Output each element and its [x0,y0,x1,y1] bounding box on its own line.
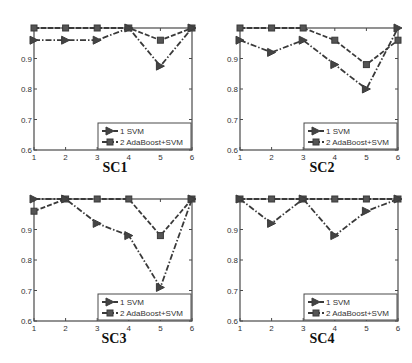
x-tick-label: 3 [301,324,306,331]
y-tick-label: 0.8 [227,256,239,265]
x-tick-label: 3 [301,153,306,160]
square-marker [332,37,338,43]
square-marker [157,37,163,43]
plot-sc3: 0.60.70.80.91234561 SVM2 AdaBoost+SVM [0,171,206,331]
square-marker [237,25,243,31]
square-marker [332,196,338,202]
x-tick-label: 1 [238,324,243,331]
legend-label: 2 AdaBoost+SVM [326,138,389,147]
square-marker [126,196,132,202]
x-tick-label: 5 [364,153,369,160]
y-tick-label: 0.7 [21,287,33,296]
x-tick-label: 2 [63,153,68,160]
square-marker [94,196,100,202]
x-tick-label: 4 [333,153,338,160]
x-tick-label: 1 [32,324,37,331]
legend-label: 1 SVM [326,127,350,136]
x-tick-label: 4 [127,324,132,331]
y-tick-label: 0.8 [227,85,239,94]
caption-sc3: SC3 [84,331,144,347]
x-tick-label: 2 [269,324,274,331]
plot-sc2: 0.60.70.80.91234561 SVM2 AdaBoost+SVM [206,0,412,160]
legend-label: 1 SVM [326,298,350,307]
x-tick-label: 2 [63,324,68,331]
legend: 1 SVM2 AdaBoost+SVM [98,123,191,149]
y-tick-label: 0.9 [227,226,239,235]
square-marker [363,62,369,68]
x-tick-label: 1 [238,153,243,160]
x-tick-label: 2 [269,153,274,160]
y-tick-label: 0.8 [21,256,33,265]
square-marker [157,233,163,239]
y-tick-label: 0.8 [21,85,33,94]
square-marker [395,37,401,43]
chart-sc1: 0.60.70.80.91234561 SVM2 AdaBoost+SVM SC… [0,0,206,181]
square-marker [63,25,69,31]
plot-sc1: 0.60.70.80.91234561 SVM2 AdaBoost+SVM [0,0,206,160]
legend-label: 2 AdaBoost+SVM [120,309,183,318]
legend-label: 1 SVM [120,127,144,136]
legend: 1 SVM2 AdaBoost+SVM [98,294,191,320]
y-tick-label: 0.7 [227,116,239,125]
square-marker [31,208,37,214]
x-tick-label: 3 [95,153,100,160]
chart-sc2: 0.60.70.80.91234561 SVM2 AdaBoost+SVM SC… [206,0,412,181]
x-tick-label: 3 [95,324,100,331]
legend: 1 SVM2 AdaBoost+SVM [304,123,397,149]
square-marker [107,139,113,145]
x-tick-label: 4 [127,153,132,160]
y-tick-label: 0.9 [21,55,33,64]
x-tick-label: 5 [158,324,163,331]
x-tick-label: 5 [158,153,163,160]
y-tick-label: 0.7 [227,287,239,296]
square-marker [94,25,100,31]
y-tick-label: 0.9 [21,226,33,235]
legend-label: 2 AdaBoost+SVM [120,138,183,147]
legend-label: 1 SVM [120,298,144,307]
square-marker [363,196,369,202]
x-tick-label: 6 [190,324,195,331]
x-tick-label: 1 [32,153,37,160]
caption-sc4: SC4 [292,331,352,347]
square-marker [300,25,306,31]
x-tick-label: 4 [333,324,338,331]
x-tick-label: 6 [396,153,401,160]
chart-sc3: 0.60.70.80.91234561 SVM2 AdaBoost+SVM SC… [0,171,206,363]
chart-sc4: 0.60.70.80.91234561 SVM2 AdaBoost+SVM SC… [206,171,412,363]
legend: 1 SVM2 AdaBoost+SVM [304,294,397,320]
square-marker [31,25,37,31]
y-tick-label: 0.9 [227,55,239,64]
x-tick-label: 6 [396,324,401,331]
x-tick-label: 5 [364,324,369,331]
x-tick-label: 6 [190,153,195,160]
square-marker [269,196,275,202]
square-marker [269,25,275,31]
legend-label: 2 AdaBoost+SVM [326,309,389,318]
y-tick-label: 0.7 [21,116,33,125]
square-marker [313,310,319,316]
square-marker [313,139,319,145]
plot-sc4: 0.60.70.80.91234561 SVM2 AdaBoost+SVM [206,171,412,331]
square-marker [107,310,113,316]
